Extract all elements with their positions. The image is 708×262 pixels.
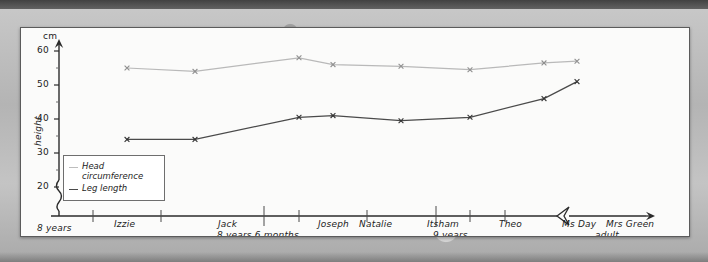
data-point-mrs-green — [575, 79, 580, 84]
line-chart-svg — [21, 28, 689, 236]
screenshot-stage: cm height 60 50 40 30 20 Izzie Jack Jose… — [0, 0, 708, 262]
x-tick-itsham: Itsham — [427, 219, 459, 229]
legend-item-head-circumference: Headcircumference — [69, 161, 143, 181]
legend-label-leg-length: Leg length — [82, 183, 127, 193]
x-tick-theo: Theo — [499, 219, 522, 229]
y-tick-50: 50 — [37, 79, 49, 89]
series-leg-length — [125, 79, 580, 142]
y-tick-60: 60 — [37, 45, 49, 55]
y-unit-label: cm — [43, 31, 57, 41]
x-tick-izzie: Izzie — [114, 219, 135, 229]
x-tick-ms-day: Ms Day — [562, 219, 596, 229]
background-bottom-shadow — [0, 252, 708, 262]
y-tick-20: 20 — [37, 181, 49, 191]
series-head-circumference — [125, 55, 580, 73]
chart-panel: cm height 60 50 40 30 20 Izzie Jack Jose… — [20, 27, 690, 237]
background-top-shadow — [0, 0, 708, 9]
x-tick-jack: Jack — [218, 219, 237, 229]
y-tick-30: 30 — [37, 147, 49, 157]
x-group-adult: adult — [595, 230, 619, 237]
x-group-8-years: 8 years — [37, 223, 72, 233]
x-tick-joseph: Joseph — [318, 219, 349, 229]
chart-legend: Headcircumference Leg length — [63, 155, 165, 201]
legend-swatch-head-circumference-icon — [69, 167, 78, 168]
y-axis — [54, 39, 63, 216]
x-group-9-years: 9 years — [433, 230, 468, 237]
y-tick-40: 40 — [37, 113, 49, 123]
x-tick-natalie: Natalie — [359, 219, 392, 229]
legend-swatch-leg-length-icon — [69, 189, 78, 190]
legend-label-head-circumference: Headcircumference — [82, 161, 143, 181]
legend-item-leg-length: Leg length — [69, 183, 127, 193]
x-tick-mrs-green: Mrs Green — [606, 219, 654, 229]
x-group-8y6m: 8 years 6 months — [217, 230, 299, 237]
